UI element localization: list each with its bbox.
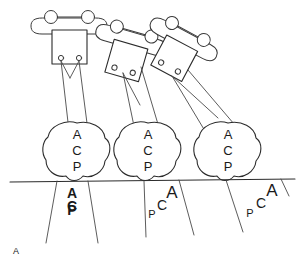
soma-right[interactable]: A C P: [194, 122, 261, 181]
mark-middle-letter-a: A: [166, 183, 178, 202]
mark-middle-letter-p: P: [148, 208, 155, 220]
device-middle-projection-2: [141, 67, 160, 131]
device-left-knob-1[interactable]: [45, 11, 58, 24]
soma-left-letter-c: C: [72, 143, 81, 158]
mark-left: A C P: [67, 185, 77, 218]
figure-root: A C P A C P A C P: [0, 0, 303, 269]
dendrite-right-2: [281, 179, 289, 196]
mark-right-letter-c: C: [256, 195, 266, 211]
soma-right-letter-a: A: [224, 127, 233, 142]
mark-middle: A C P: [148, 183, 178, 219]
soma-middle-letter-c: C: [143, 143, 152, 158]
soma-left-letter-a: A: [73, 127, 82, 142]
device-left-projection-1: [61, 61, 69, 131]
soma-right-letter-p: P: [224, 159, 233, 174]
soma-middle[interactable]: A C P: [114, 122, 181, 181]
mark-middle-letter-c: C: [157, 197, 167, 213]
device-left-projection-2: [79, 61, 88, 131]
device-middle-projection-1: [123, 73, 135, 131]
soma-middle-letter-a: A: [144, 127, 153, 142]
horizontal-reference-line: [10, 179, 295, 182]
soma-right-letter-c: C: [223, 143, 232, 158]
soma-left[interactable]: A C P: [43, 122, 110, 181]
dendrite-middle-2: [179, 180, 194, 235]
device-left-knob-2[interactable]: [82, 11, 95, 24]
soma-left-letter-p: P: [73, 159, 82, 174]
mark-right-letter-p: P: [246, 207, 253, 219]
device-left[interactable]: [31, 11, 107, 132]
mark-right-letter-a: A: [266, 181, 278, 200]
panel-label: A: [13, 246, 19, 256]
diagram-canvas: A C P A C P A C P: [0, 0, 303, 269]
dendrite-right-1: [226, 180, 243, 232]
mark-left-letter-p: P: [67, 202, 76, 218]
dendrite-left-2: [88, 181, 98, 243]
mark-right: A C P: [246, 181, 278, 218]
dendrite-middle-1: [144, 181, 146, 237]
soma-middle-letter-p: P: [144, 159, 153, 174]
dendrite-left-1: [46, 181, 57, 243]
